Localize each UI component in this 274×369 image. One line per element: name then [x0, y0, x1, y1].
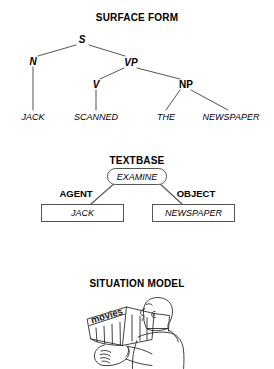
- textbase-argument-object-box: NEWSPAPER: [152, 204, 235, 222]
- textbase-argument-agent-label: JACK: [71, 208, 94, 218]
- finger-line: [101, 350, 111, 352]
- tree-terminal-newspaper: NEWSPAPER: [203, 112, 260, 122]
- thumb-line: [126, 346, 129, 357]
- tree-node-s: S: [79, 34, 86, 45]
- textbase-predicate-label: EXAMINE: [117, 172, 158, 182]
- nose-profile: [141, 309, 145, 316]
- section-title-situation-model: SITUATION MODEL: [89, 278, 184, 289]
- edge-vp-v: [100, 68, 124, 79]
- back-outline: [132, 341, 137, 369]
- hand-outline: [94, 345, 129, 366]
- edge-examine-agent: [91, 182, 116, 204]
- textbase-argument-agent-box: JACK: [41, 204, 124, 222]
- edge-s-vp: [89, 45, 125, 56]
- edge-s-n: [38, 45, 76, 56]
- textbase-role-object: OBJECT: [177, 188, 216, 199]
- situation-model-illustration: movies: [82, 292, 194, 369]
- section-title-textbase: TEXTBASE: [110, 155, 165, 166]
- textbase-role-agent: AGENT: [59, 188, 92, 199]
- scan-artifact: ·: [210, 2, 212, 8]
- head-outline: [144, 298, 173, 329]
- newspaper-fold: [123, 307, 127, 346]
- tree-node-np: NP: [179, 79, 193, 90]
- edge-vp-np: [137, 68, 180, 79]
- tree-node-v: V: [93, 79, 100, 90]
- finger-line: [100, 354, 110, 356]
- scan-artifact: ·: [108, 1, 110, 7]
- tree-node-n: N: [29, 56, 36, 67]
- tree-terminal-scanned: SCANNED: [74, 112, 118, 122]
- newspaper-column: [104, 326, 105, 343]
- sleeve-outline: [129, 347, 153, 355]
- tree-terminal-the: THE: [157, 112, 175, 122]
- tree-node-vp: VP: [124, 57, 137, 68]
- section-title-surface-form: SURFACE FORM: [96, 12, 178, 23]
- textbase-predicate-node: EXAMINE: [107, 168, 167, 185]
- edge-np-newspaper: [191, 90, 228, 110]
- sleeve-outline: [126, 359, 152, 366]
- finger-line: [102, 361, 110, 363]
- textbase-argument-object-label: NEWSPAPER: [165, 208, 222, 218]
- finger-line: [100, 358, 109, 360]
- tree-terminal-jack: JACK: [21, 112, 44, 122]
- newspaper-headline-text: movies: [89, 305, 124, 325]
- diagram-canvas: · · SURFACE FORM S N VP V NP JACK SCANNE…: [0, 0, 274, 369]
- brow-line: [146, 304, 152, 305]
- edge-np-the: [166, 90, 180, 110]
